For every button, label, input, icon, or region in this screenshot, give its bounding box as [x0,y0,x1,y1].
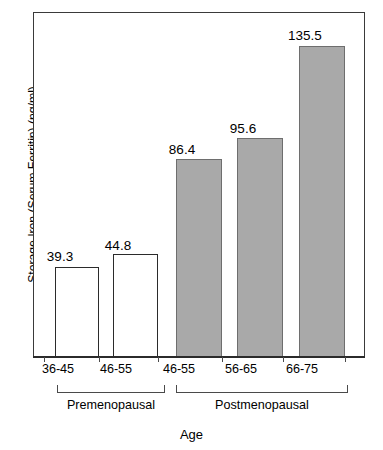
bar-value-label-1: 39.3 [30,250,90,264]
x-tick-label-1: 36-45 [26,363,90,376]
bar-value-label-5: 135.5 [275,29,335,43]
bar-value-label-4: 95.6 [213,122,273,136]
x-tick-label-5: 66-75 [270,363,334,376]
x-axis-tick [158,357,159,362]
bar-56-65-postmenopausal [237,138,283,357]
group-bracket-premenopausal [57,385,165,393]
group-label-premenopausal: Premenopausal [47,399,175,412]
group-bracket-postmenopausal [176,385,348,393]
plot-area [33,12,365,357]
x-axis-title: Age [0,428,383,441]
bar-46-55-postmenopausal [176,159,222,357]
x-tick-label-3: 46-55 [147,363,211,376]
x-tick-label-4: 56-65 [209,363,273,376]
x-tick-label-2: 46-55 [84,363,148,376]
x-axis-baseline [33,356,365,358]
bar-value-label-2: 44.8 [88,239,148,253]
bar-value-label-3: 86.4 [152,143,212,157]
x-axis-tick [345,357,346,362]
bar-36-45-premenopausal [55,267,99,357]
bar-chart-figure: Storage Iron (Serum Ferritin) (ng/ml) 39… [0,0,383,450]
bar-66-75-postmenopausal [299,46,345,357]
bar-46-55-premenopausal [113,254,158,357]
x-axis-tick [222,357,223,362]
group-label-postmenopausal: Postmenopausal [198,399,326,412]
x-axis-tick [283,357,284,362]
